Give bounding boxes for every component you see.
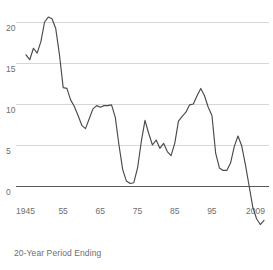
y-axis-tick-labels: 20151050-5 bbox=[6, 23, 16, 225]
y-tick-label: 0 bbox=[6, 187, 11, 197]
x-tick-label: 1945 bbox=[16, 206, 35, 216]
x-tick-label: 85 bbox=[170, 206, 180, 216]
x-tick-label: 75 bbox=[133, 206, 143, 216]
x-axis-tick-labels: 194555657585952009 bbox=[16, 206, 265, 216]
x-tick-label: 65 bbox=[96, 206, 106, 216]
y-tick-label: 15 bbox=[6, 64, 16, 74]
y-tick-label: 10 bbox=[6, 105, 16, 115]
x-tick-label: 55 bbox=[58, 206, 68, 216]
x-tick-label: 95 bbox=[207, 206, 217, 216]
series-line-20-year-annualized-return bbox=[26, 17, 264, 224]
plot-area: 20151050-5 194555657585952009 bbox=[0, 0, 273, 225]
y-tick-label: 5 bbox=[6, 146, 11, 156]
x-axis-title: 20-Year Period Ending bbox=[14, 248, 101, 258]
chart-container: 20151050-5 194555657585952009 20-Year Pe… bbox=[0, 0, 273, 270]
y-tick-label: 20 bbox=[6, 23, 16, 33]
line-chart-svg: 20151050-5 194555657585952009 bbox=[0, 0, 273, 225]
